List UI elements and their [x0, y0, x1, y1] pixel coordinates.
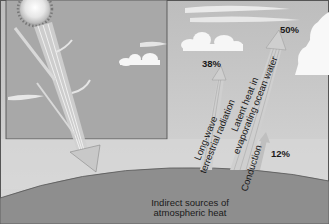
percent-label-conduction: 12%	[271, 148, 291, 159]
sun-icon	[18, 0, 52, 26]
percent-label-longwave: 38%	[202, 58, 222, 69]
percent-label-latent: 50%	[280, 24, 300, 35]
diagram-svg: 38% 50% 12% Long-wave terrestrial radiat…	[0, 0, 329, 224]
ground-caption-line2: atmospheric heat	[154, 207, 227, 218]
diagram-canvas: 38% 50% 12% Long-wave terrestrial radiat…	[0, 0, 329, 224]
